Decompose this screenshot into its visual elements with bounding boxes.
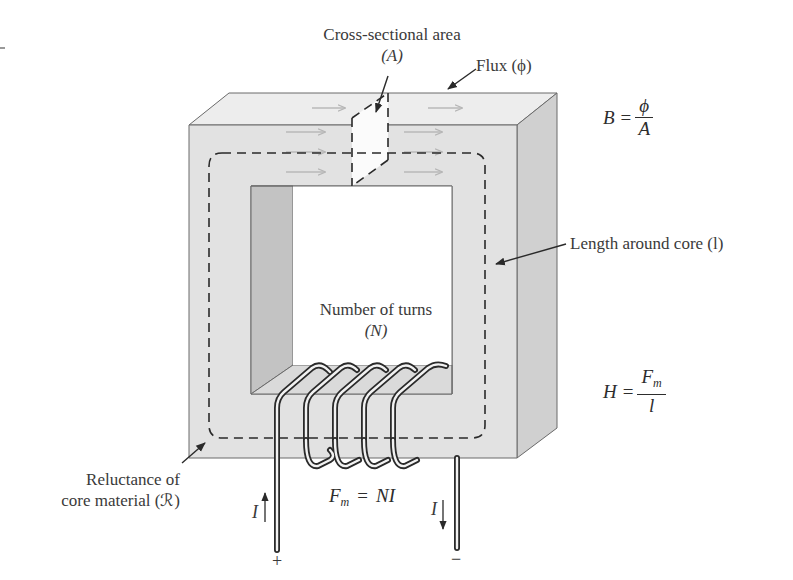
mmf-lhs-sub: m — [341, 495, 350, 509]
cross-section-label: Cross-sectional area (A) — [300, 25, 484, 65]
flux-arrow-pointer — [448, 69, 476, 89]
field-intensity-numerator-main: F — [641, 366, 653, 387]
reluctance-label: Reluctance of core material (ℛ) — [30, 470, 180, 510]
mmf-equals: = — [357, 485, 368, 506]
mmf-lhs: F — [329, 485, 341, 506]
window-inner-left-face — [251, 186, 293, 394]
cross-section-label-line1: Cross-sectional area — [300, 25, 484, 44]
reluctance-label-line1: Reluctance of — [30, 470, 180, 489]
field-intensity-lhs: H — [603, 381, 617, 403]
flux-density-denominator: A — [638, 118, 650, 139]
field-intensity-equation: H = Fm l — [603, 367, 666, 416]
field-intensity-numerator: Fm — [637, 367, 665, 395]
flux-density-equals: = — [621, 107, 632, 129]
field-intensity-equals: = — [623, 381, 634, 403]
reluctance-label-line2: core material (ℛ) — [30, 491, 180, 510]
turns-label-line2: (N) — [296, 321, 456, 340]
left-current-label: I — [252, 503, 258, 522]
right-current-label: I — [431, 500, 437, 519]
field-intensity-numerator-sub: m — [653, 376, 662, 390]
mmf-rhs: NI — [376, 485, 395, 506]
flux-density-equation: B = ϕ A — [603, 96, 653, 139]
field-intensity-denominator: l — [649, 395, 654, 416]
cross-section-label-line2: (A) — [300, 46, 484, 65]
minus-terminal-label: − — [451, 550, 461, 569]
mmf-equation: Fm=NI — [329, 485, 395, 510]
flux-density-numerator: ϕ — [635, 96, 653, 118]
flux-density-lhs: B — [603, 107, 615, 129]
length-label: Length around core (l) — [570, 234, 723, 253]
plus-terminal-label: + — [272, 552, 282, 571]
core-side-face — [517, 93, 557, 458]
flux-density-fraction: ϕ A — [635, 96, 653, 139]
turns-label: Number of turns (N) — [296, 300, 456, 340]
flux-label: Flux (ϕ) — [476, 56, 532, 75]
field-intensity-fraction: Fm l — [637, 367, 665, 416]
turns-label-line1: Number of turns — [296, 300, 456, 319]
